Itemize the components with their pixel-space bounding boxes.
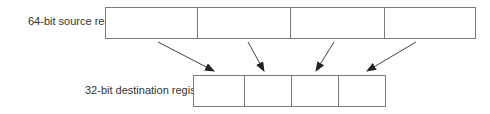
mapping-arrows (158, 42, 416, 71)
arrow-2-icon (248, 42, 264, 71)
destination-register (194, 76, 386, 107)
arrow-1-icon (158, 42, 214, 71)
arrow-4-icon (367, 42, 416, 71)
source-register (106, 8, 476, 39)
arrow-3-icon (316, 42, 334, 71)
register-diagram (0, 0, 490, 114)
